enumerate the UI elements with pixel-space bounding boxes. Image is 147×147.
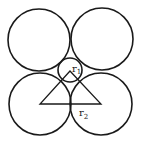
diagram-canvas: r1 r2 [0,0,147,147]
circle-packing-diagram: r1 r2 [0,0,147,147]
large-circle-top-right [71,8,133,70]
label-r2: r2 [79,107,88,121]
